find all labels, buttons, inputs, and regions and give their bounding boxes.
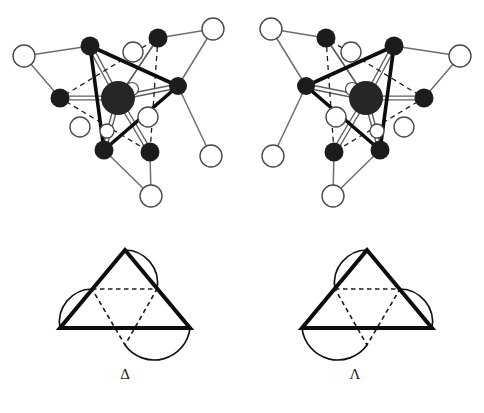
figure-root: Δ Λ [0, 0, 484, 413]
lambda-triangle-schematic [282, 232, 452, 360]
delta-enantiomer-structure [0, 0, 242, 225]
inner-dashed-triangle [335, 289, 400, 345]
lambda-structure-svg [242, 0, 484, 225]
delta-triangle-schematic [40, 232, 210, 360]
lambda-enantiomer-structure [242, 0, 484, 225]
lambda-schematic-svg [282, 232, 452, 360]
chirality-label-lambda: Λ [325, 366, 385, 383]
chirality-label-delta: Δ [95, 366, 155, 383]
inner-dashed-triangle [92, 289, 157, 345]
delta-schematic-svg [40, 232, 210, 360]
metal-center-atom [101, 81, 135, 115]
metal-center-atom [349, 81, 383, 115]
delta-structure-svg [0, 0, 242, 225]
